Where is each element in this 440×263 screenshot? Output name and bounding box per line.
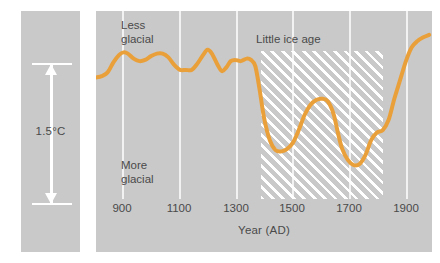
tick-label-1500: 1500 [279, 202, 305, 214]
tick-label-1700: 1700 [336, 202, 362, 214]
arrow-up-icon [45, 64, 57, 75]
tick-label-1100: 1100 [167, 202, 192, 214]
temperature-curve [96, 11, 432, 199]
climate-chart-figure: 1.5°C Less glacial More glacial Little i… [0, 0, 440, 263]
axis-title: Year (AD) [96, 224, 432, 236]
tick-label-1900: 1900 [393, 202, 419, 214]
temperature-curve-path [96, 35, 429, 166]
tick-label-900: 900 [112, 202, 131, 214]
axis-tick-labels: 900 1100 1300 1500 1700 1900 [0, 202, 440, 220]
plot-area: Less glacial More glacial Little ice age [96, 11, 432, 199]
tick-label-1300: 1300 [223, 202, 249, 214]
scale-label: 1.5°C [21, 125, 80, 137]
